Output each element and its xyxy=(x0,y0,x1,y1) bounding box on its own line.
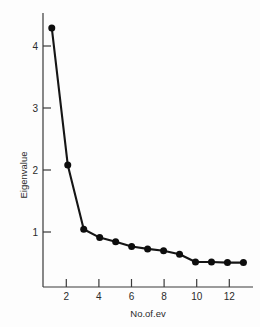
y-axis-title: Eigenvalue xyxy=(18,151,29,198)
x-tick-label-12: 12 xyxy=(224,291,236,302)
data-point xyxy=(80,226,87,233)
data-point xyxy=(64,161,71,168)
y-tick-label-4: 4 xyxy=(32,41,38,52)
x-tick-label-10: 10 xyxy=(191,291,203,302)
y-tick-label-3: 3 xyxy=(32,103,38,114)
eigenvalue-series-markers xyxy=(48,24,247,266)
x-tick-label-4: 4 xyxy=(96,291,102,302)
data-point xyxy=(128,243,135,250)
x-tick-label-6: 6 xyxy=(129,291,135,302)
x-tick-label-2: 2 xyxy=(64,291,70,302)
data-point xyxy=(208,258,215,265)
x-axis-ticks: 2 4 6 8 10 12 xyxy=(64,279,236,302)
scree-plot-svg: 4 3 2 1 2 4 6 8 10 12 No.of.ev Eigenvalu… xyxy=(0,0,260,327)
data-point xyxy=(48,24,55,31)
scree-plot-figure: 4 3 2 1 2 4 6 8 10 12 No.of.ev Eigenvalu… xyxy=(0,0,260,327)
y-tick-label-1: 1 xyxy=(32,227,38,238)
data-point xyxy=(224,259,231,266)
x-axis-title: No.of.ev xyxy=(130,308,166,319)
eigenvalue-series-line xyxy=(52,28,244,263)
data-point xyxy=(240,259,247,266)
data-point xyxy=(112,238,119,245)
y-axis-ticks: 4 3 2 1 xyxy=(32,41,51,238)
data-point xyxy=(176,251,183,258)
data-point xyxy=(144,245,151,252)
data-point xyxy=(192,258,199,265)
y-tick-label-2: 2 xyxy=(32,165,38,176)
data-point xyxy=(160,247,167,254)
x-tick-label-8: 8 xyxy=(161,291,167,302)
data-point xyxy=(96,234,103,241)
